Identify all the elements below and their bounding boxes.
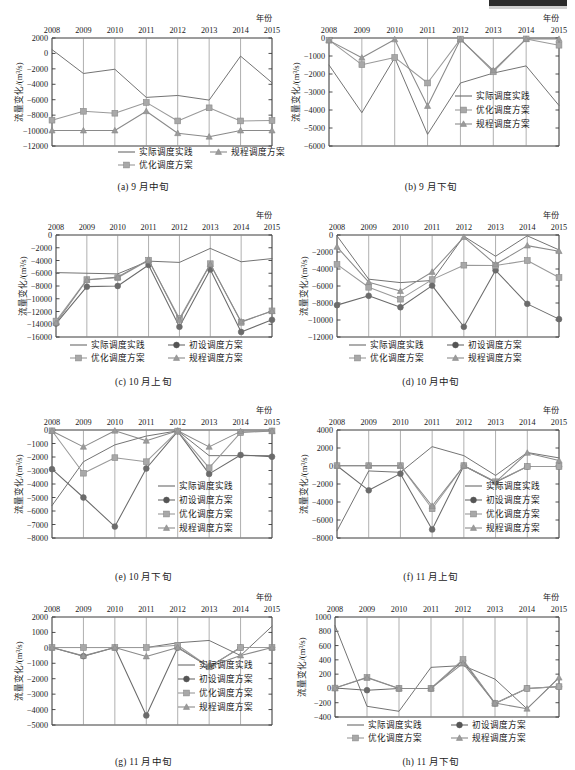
data-point-initial-2008 [334, 302, 340, 308]
data-point-initial-2009 [84, 284, 90, 290]
legend: 实际调度实践初设调度方案优化调度方案规程调度方案 [349, 339, 522, 363]
x-tick-label-2011: 2011 [138, 26, 154, 35]
x-tick-label-2013: 2013 [487, 223, 503, 232]
y-tick-label: −10000 [27, 295, 52, 304]
x-axis-title: 年份 [543, 210, 559, 220]
x-tick-label-2011: 2011 [424, 418, 440, 427]
y-axis-title: 流量变化/(m³/s) [13, 454, 24, 513]
x-tick-label-2014: 2014 [232, 605, 248, 614]
subchart-e-svg: 0−1000−2000−3000−4000−5000−6000−7000−800… [0, 390, 287, 585]
x-tick-label-2012: 2012 [171, 223, 187, 232]
subchart-g-svg: 200010000−1000−2000−3000−4000−5000200820… [0, 585, 287, 770]
x-axis-title: 年份 [543, 405, 559, 415]
y-tick-label: −8000 [312, 534, 333, 543]
x-tick-label-2010: 2010 [391, 605, 407, 614]
data-point-initial-2014 [238, 329, 244, 335]
legend-label-actual: 实际调度实践 [368, 719, 422, 730]
data-point-initial-2009 [81, 495, 87, 501]
subchart-g: 200010000−1000−2000−3000−4000−5000200820… [0, 585, 287, 770]
legend-label-actual: 实际调度实践 [370, 339, 424, 350]
legend: 实际调度实践初设调度方案优化调度方案规程调度方案 [158, 480, 233, 533]
x-tick-label-2009: 2009 [79, 223, 95, 232]
y-tick-label: −3000 [27, 467, 48, 476]
y-tick-label: 0 [44, 644, 48, 653]
y-axis-title: 流量变化/(m³/s) [298, 256, 309, 315]
subchart-a: 20000−2000−4000−6000−8000−10000−12000200… [0, 0, 287, 195]
x-tick-label-2009: 2009 [75, 26, 91, 35]
legend-label-regulation: 规程调度方案 [199, 701, 253, 712]
x-tick-label-2010: 2010 [110, 223, 126, 232]
legend-label-initial: 初设调度方案 [472, 719, 526, 730]
data-point-initial-2008 [49, 466, 55, 472]
x-tick-label-2014: 2014 [519, 605, 535, 614]
subchart-caption-e: (e) 10 月下旬 [0, 569, 287, 583]
x-tick-label-2008: 2008 [321, 26, 337, 35]
y-axis-title: 流量变化/(m³/s) [17, 256, 28, 315]
y-tick-label: −2000 [27, 453, 48, 462]
y-tick-label: −3000 [304, 88, 325, 97]
y-tick-label: 0 [48, 231, 52, 240]
legend-label-initial: 初设调度方案 [468, 339, 522, 350]
subchart-caption-g: (g) 11 月中旬 [0, 754, 287, 768]
x-tick-label-2015: 2015 [551, 223, 567, 232]
y-tick-label: −2000 [27, 675, 48, 684]
legend-label-actual: 实际调度实践 [199, 659, 253, 670]
y-tick-label: −1000 [27, 440, 48, 449]
data-point-optimized-2011 [425, 80, 431, 86]
x-tick-label-2011: 2011 [420, 26, 436, 35]
x-tick-label-2015: 2015 [264, 223, 280, 232]
x-tick-label-2008: 2008 [44, 605, 60, 614]
y-tick-label: −7000 [27, 521, 48, 530]
x-tick-label-2014: 2014 [519, 418, 535, 427]
data-point-initial-2011 [429, 283, 435, 289]
data-point-optimized-2012 [461, 262, 467, 268]
y-tick-label: −8000 [27, 534, 48, 543]
y-tick-label: −6000 [27, 96, 48, 105]
x-tick-label-2011: 2011 [138, 605, 154, 614]
legend-label-initial: 初设调度方案 [199, 673, 253, 684]
y-tick-label: 1000 [315, 613, 331, 622]
legend-marker-circle [164, 497, 170, 503]
x-tick-label-2009: 2009 [75, 605, 91, 614]
data-point-optimized-2010 [112, 110, 118, 116]
x-tick-label-2010: 2010 [392, 418, 408, 427]
y-axis-title: 流量变化/(m³/s) [13, 62, 24, 121]
legend-marker-square [124, 162, 130, 168]
y-tick-label: −4000 [27, 706, 48, 715]
x-tick-label-2008: 2008 [48, 223, 64, 232]
subchart-c: 0−2000−4000−6000−8000−10000−12000−14000−… [0, 195, 287, 390]
data-point-initial-2010 [112, 524, 118, 530]
data-point-optimized-2009 [359, 62, 365, 68]
x-tick-label-2009: 2009 [354, 26, 370, 35]
legend-marker-square [164, 511, 170, 517]
x-tick-label-2012: 2012 [456, 223, 472, 232]
data-point-regulation-2013 [206, 444, 212, 450]
data-point-optimized-2014 [524, 464, 530, 470]
x-tick-label-2015: 2015 [264, 605, 280, 614]
data-point-initial-2011 [143, 713, 149, 719]
legend-marker-square [461, 107, 467, 113]
y-tick-label: 0 [44, 49, 48, 58]
legend-marker-circle [184, 676, 190, 682]
data-point-optimized-2012 [175, 118, 181, 124]
y-tick-label: 0 [329, 231, 333, 240]
data-point-regulation-2011 [424, 103, 430, 109]
data-point-optimized-2008 [334, 261, 340, 267]
legend-marker-square [76, 355, 82, 361]
subchart-caption-c: (c) 10 月上旬 [0, 374, 287, 388]
legend-label-optimized: 优化调度方案 [370, 352, 424, 363]
legend-marker-square [353, 735, 359, 741]
data-point-optimized-2011 [429, 277, 435, 283]
data-point-optimized-2009 [81, 470, 87, 476]
y-tick-label: −1000 [304, 52, 325, 61]
subchart-f: 400020000−2000−4000−6000−800020082009201… [287, 390, 575, 585]
y-tick-label: −4000 [27, 80, 48, 89]
data-point-initial-2015 [556, 316, 562, 322]
y-axis-title: 流量变化/(m³/s) [298, 454, 309, 513]
data-point-initial-2009 [364, 687, 370, 693]
legend-label-regulation: 规程调度方案 [472, 732, 526, 743]
x-tick-label-2011: 2011 [424, 223, 440, 232]
y-tick-label: −4000 [27, 480, 48, 489]
x-tick-label-2013: 2013 [487, 418, 503, 427]
y-tick-label: −8000 [31, 282, 52, 291]
